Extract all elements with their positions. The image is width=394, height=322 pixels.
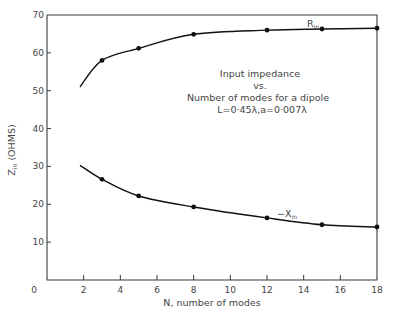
svg-text:−Xin: −Xin [277,208,297,220]
annotation-line-3: Number of modes for a dipole [187,92,329,103]
y-tick-label: 40 [33,124,45,134]
svg-text:Rin: Rin [307,18,319,30]
data-point [136,46,141,51]
annotation-line-1: Input impedance [220,68,300,79]
y-tick-label: 30 [33,161,45,171]
y-axis-label: Zin (OHMS) [6,124,18,175]
data-point [191,32,196,37]
data-series [80,26,379,230]
annotation-line-4: L=0·45λ,a=0·007λ [217,104,307,115]
y-tick-label: 10 [33,237,45,247]
y-axis-label-unit: (OHMS) [6,124,17,160]
x-axis-label: N, number of modes [163,297,260,308]
data-point [191,205,196,210]
plot-border [47,15,377,280]
impedance-chart: 024681012141618 10203040506070 Input imp… [0,0,394,322]
data-point [375,225,380,230]
x-tick-label: 4 [117,285,123,295]
data-point [100,177,105,182]
x-axis-ticks: 024681012141618 [31,275,383,295]
annotation-line-2: vs. [253,80,267,91]
curve-xin [80,165,377,227]
chart-annotation: Input impedance vs. Number of modes for … [187,68,329,115]
x-tick-label: 10 [225,285,237,295]
x-tick-label: 8 [191,285,197,295]
data-point [320,27,325,32]
data-point [320,222,325,227]
y-tick-label: 60 [33,48,45,58]
y-tick-label: 70 [33,10,45,20]
x-tick-label: 2 [81,285,87,295]
x-tick-label: 18 [371,285,383,295]
data-point [265,28,270,33]
svg-text:Zin (OHMS): Zin (OHMS) [6,124,18,175]
y-tick-label: 20 [33,199,45,209]
x-tick-label: 16 [335,285,347,295]
y-axis-ticks: 10203040506070 [33,10,51,247]
x-tick-label: 6 [154,285,160,295]
data-point [265,216,270,221]
plot-frame [47,15,377,280]
x-tick-label: 12 [261,285,272,295]
data-point [100,58,105,63]
series-label-xin: −Xin [277,208,297,220]
series-label-rin: Rin [307,18,319,30]
x-tick-label: 0 [31,285,37,295]
x-tick-label: 14 [298,285,310,295]
data-point [375,26,380,31]
y-tick-label: 50 [33,86,45,96]
data-point [136,194,141,199]
